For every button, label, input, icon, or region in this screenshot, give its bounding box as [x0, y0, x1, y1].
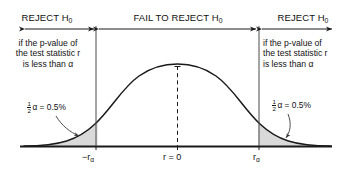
left-region-heading: REJECT H0: [12, 12, 82, 24]
right-region-heading-subscript: 0: [325, 17, 329, 24]
right-alpha-annotation: 12α = 0.5%: [272, 99, 311, 113]
left-region-heading-subscript: 0: [69, 17, 73, 24]
left-region-heading-text: REJECT H: [22, 12, 69, 23]
right-region-body-line-1: if the p-value of: [263, 38, 347, 48]
left-alpha-leader-line: [56, 116, 79, 136]
right-region-body: if the p-value of the test statistic r i…: [263, 38, 347, 69]
right-alpha-leader-line: [286, 114, 290, 138]
left-alpha-fraction: 12: [27, 101, 31, 115]
center-region-heading-text: FAIL TO REJECT H: [133, 12, 218, 23]
right-region-body-line-2: the test statistic r: [263, 48, 347, 58]
diagram-canvas: [0, 0, 350, 172]
left-region-body: if the p-value of the test statistic r i…: [4, 38, 92, 69]
axis-label-negative-r-alpha: −rα: [82, 152, 94, 162]
center-region-heading: FAIL TO REJECT H0: [112, 12, 244, 24]
left-alpha-text: α = 0.5%: [32, 102, 65, 112]
right-alpha-fraction: 12: [272, 99, 276, 113]
center-region-heading-subscript: 0: [219, 17, 223, 24]
right-region-heading: REJECT H0: [268, 12, 338, 24]
axis-label-negative-r-alpha-sub: α: [90, 156, 94, 163]
left-region-body-line-3: is less than α: [4, 59, 92, 69]
left-alpha-denominator: 2: [27, 108, 31, 114]
right-region-body-line-3: is less than α: [263, 59, 347, 69]
axis-label-r-zero-main: r = 0: [163, 152, 181, 162]
axis-label-positive-r-alpha: rα: [253, 152, 260, 162]
hypothesis-test-diagram: REJECT H0 if the p-value of the test sta…: [0, 0, 350, 172]
left-region-body-line-1: if the p-value of: [4, 38, 92, 48]
axis-label-positive-r-alpha-sub: α: [256, 156, 260, 163]
right-alpha-denominator: 2: [272, 106, 276, 112]
right-alpha-text: α = 0.5%: [277, 100, 310, 110]
axis-label-r-zero: r = 0: [163, 152, 181, 162]
left-region-body-line-2: the test statistic r: [4, 48, 92, 58]
right-region-heading-text: REJECT H: [278, 12, 325, 23]
left-alpha-annotation: 12α = 0.5%: [27, 101, 66, 115]
